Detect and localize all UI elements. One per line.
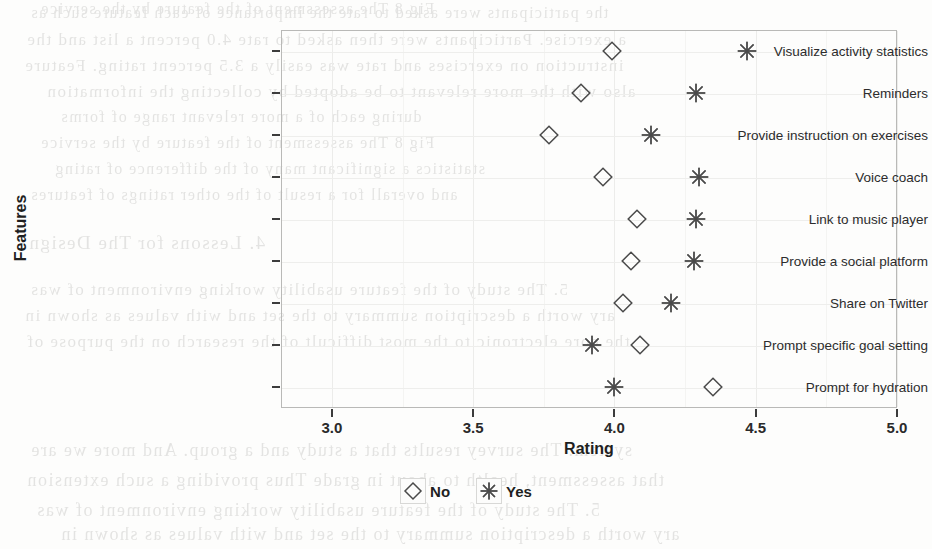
y-axis-tick-mark [272, 176, 280, 178]
y-axis-tick-mark [272, 218, 280, 220]
x-axis-tick-label: 4.0 [604, 419, 625, 436]
y-axis-tick-label: Prompt specific goal setting [664, 338, 932, 353]
x-axis-tick-mark [472, 409, 474, 417]
y-axis-tick-mark [272, 50, 280, 52]
data-point-asterisk [685, 208, 707, 230]
gridline-vertical-minor [403, 31, 404, 407]
y-axis-tick-mark [272, 302, 280, 304]
data-point-asterisk [640, 124, 662, 146]
y-axis-tick-mark [272, 92, 280, 94]
data-point-diamond [620, 250, 642, 272]
x-axis-title: Rating [281, 440, 897, 458]
gridline-vertical-minor [544, 31, 545, 407]
dot-plot-chart: Features Rating Visualize activity stati… [0, 0, 932, 549]
data-point-diamond [538, 124, 560, 146]
y-axis-tick-label: Share on Twitter [664, 296, 932, 311]
x-axis-tick-label: 3.5 [463, 419, 484, 436]
data-point-asterisk [685, 82, 707, 104]
y-axis-title: Features [12, 163, 30, 293]
legend-item-yes[interactable]: Yes [476, 478, 532, 504]
y-axis-tick-mark [272, 260, 280, 262]
gridline-vertical-major [473, 31, 474, 407]
legend-label: Yes [506, 483, 532, 500]
data-point-diamond [601, 40, 623, 62]
legend-key-asterisk-icon [476, 478, 502, 504]
data-point-diamond [702, 376, 724, 398]
chart-page: the participants were asked to rate the … [0, 0, 932, 549]
data-point-asterisk [688, 166, 710, 188]
y-axis-tick-label: Visualize activity statistics [664, 44, 932, 59]
gridline-vertical-major [332, 31, 333, 407]
x-axis-tick-mark [613, 409, 615, 417]
data-point-diamond [626, 208, 648, 230]
data-point-asterisk [581, 334, 603, 356]
x-axis-tick-mark [896, 409, 898, 417]
y-axis-tick-mark [272, 386, 280, 388]
chart-legend: NoYes [0, 478, 932, 504]
data-point-asterisk [683, 250, 705, 272]
legend-label: No [430, 483, 450, 500]
legend-item-no[interactable]: No [400, 478, 450, 504]
y-axis-tick-mark [272, 134, 280, 136]
legend-key-diamond-icon [400, 478, 426, 504]
x-axis-tick-label: 5.0 [887, 419, 908, 436]
data-point-asterisk [603, 376, 625, 398]
x-axis-tick-label: 3.0 [321, 419, 342, 436]
x-axis-tick-label: 4.5 [745, 419, 766, 436]
data-point-asterisk [660, 292, 682, 314]
data-point-diamond [592, 166, 614, 188]
data-point-asterisk [736, 40, 758, 62]
data-point-diamond [612, 292, 634, 314]
x-axis-tick-mark [755, 409, 757, 417]
y-axis-tick-mark [272, 344, 280, 346]
gridline-vertical-major [614, 31, 615, 407]
x-axis-tick-mark [331, 409, 333, 417]
data-point-diamond [629, 334, 651, 356]
data-point-diamond [570, 82, 592, 104]
y-axis-tick-label: Provide instruction on exercises [664, 128, 932, 143]
